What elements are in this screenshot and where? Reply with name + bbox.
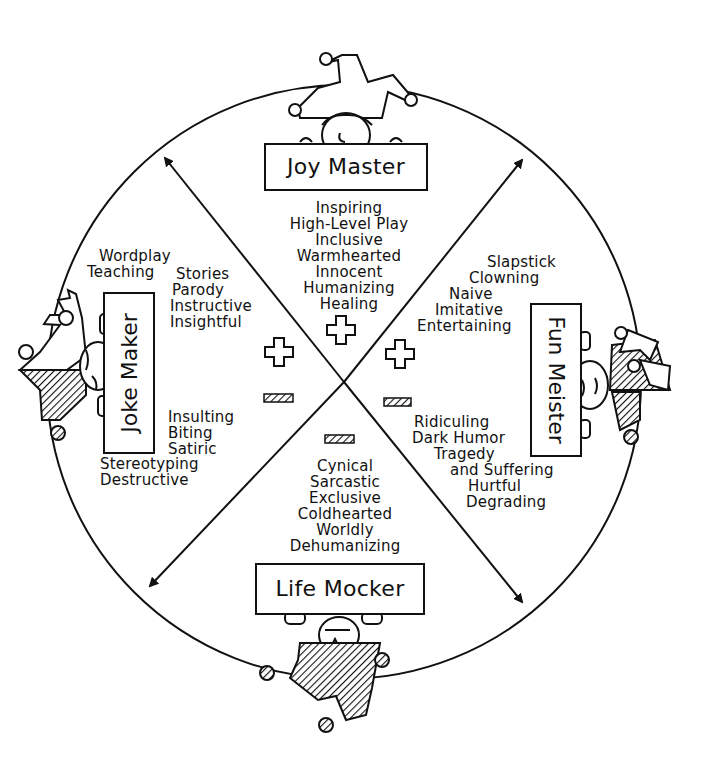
trait: Innocent — [274, 264, 424, 280]
plus-icon-right — [386, 340, 414, 368]
trait: Inspiring — [274, 200, 424, 216]
trait: Coldhearted — [270, 506, 420, 522]
joke-maker-positive-col2: Stories Parody Instructive Insightful — [172, 266, 252, 330]
trait: Tragedy — [412, 446, 554, 462]
trait: and Suffering — [412, 462, 554, 478]
minus-icon-right — [384, 398, 411, 406]
trait: Imitative — [417, 302, 556, 318]
trait: Humanizing — [274, 280, 424, 296]
trait: Insulting — [168, 409, 234, 425]
sign-life-mocker-label: Life Mocker — [275, 576, 404, 601]
trait: Ridiculing — [412, 414, 554, 430]
trait: Dehumanizing — [270, 538, 420, 554]
joke-maker-negative-b: Stereotyping Destructive — [100, 456, 199, 488]
trait: Stories — [172, 266, 252, 282]
fun-meister-positive: Slapstick Clowning Naive Imitative Enter… — [417, 254, 556, 334]
fun-meister-negative: Ridiculing Dark Humor Tragedy and Suffer… — [412, 414, 554, 510]
trait: Sarcastic — [270, 474, 420, 490]
trait: Worldly — [270, 522, 420, 538]
sign-joy-master: Joy Master — [264, 143, 428, 191]
sign-joy-master-label: Joy Master — [287, 154, 405, 179]
trait: Healing — [274, 296, 424, 312]
trait: Entertaining — [417, 318, 556, 334]
trait: Stereotyping — [100, 456, 199, 472]
sign-joke-maker-label: Joke Maker — [117, 313, 142, 432]
plus-icon-left — [265, 338, 293, 366]
minus-icon-left — [264, 394, 293, 402]
trait: Naive — [417, 286, 556, 302]
jester-joke-maker-illustration — [19, 290, 116, 440]
joke-maker-positive-col1: Wordplay Teaching — [95, 248, 171, 280]
trait: Warmhearted — [274, 248, 424, 264]
trait: Destructive — [100, 472, 199, 488]
trait: Biting — [168, 425, 234, 441]
jester-fun-meister-illustration — [572, 327, 670, 444]
trait: Inclusive — [274, 232, 424, 248]
trait: Dark Humor — [412, 430, 554, 446]
trait: High-Level Play — [274, 216, 424, 232]
sign-joke-maker: Joke Maker — [103, 292, 155, 454]
joke-maker-negative-a: Insulting Biting Satiric — [168, 409, 234, 457]
trait: Exclusive — [270, 490, 420, 506]
trait: Cynical — [270, 458, 420, 474]
trait: Instructive — [170, 298, 252, 314]
trait: Teaching — [87, 264, 171, 280]
trait: Degrading — [412, 494, 554, 510]
trait: Wordplay — [95, 248, 171, 264]
trait: Slapstick — [417, 254, 556, 270]
sign-life-mocker: Life Mocker — [255, 563, 425, 615]
trait: Clowning — [417, 270, 556, 286]
jester-joy-master-illustration — [289, 53, 417, 157]
life-mocker-traits: Cynical Sarcastic Exclusive Coldhearted … — [270, 458, 420, 554]
trait: Parody — [172, 282, 252, 298]
plus-icon-top — [327, 316, 355, 344]
minus-icon-bottom — [325, 435, 354, 443]
trait: Insightful — [170, 314, 252, 330]
trait: Hurtful — [412, 478, 554, 494]
joy-master-traits: Inspiring High-Level Play Inclusive Warm… — [274, 200, 424, 312]
